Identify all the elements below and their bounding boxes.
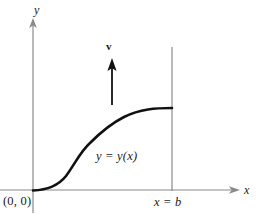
curve-diagram-figure: y x v y = y(x) (0, 0) x = b <box>0 0 256 221</box>
origin-label: (0, 0) <box>3 195 31 208</box>
velocity-vector-arrow <box>107 58 116 105</box>
diagram-canvas <box>0 0 256 221</box>
y-axis-label: y <box>34 4 40 16</box>
y-axis <box>29 18 37 213</box>
function-curve-label: y = y(x) <box>96 150 137 163</box>
boundary-label: x = b <box>154 196 181 209</box>
x-axis-label: x <box>244 184 250 196</box>
velocity-vector-label: v <box>106 41 112 52</box>
